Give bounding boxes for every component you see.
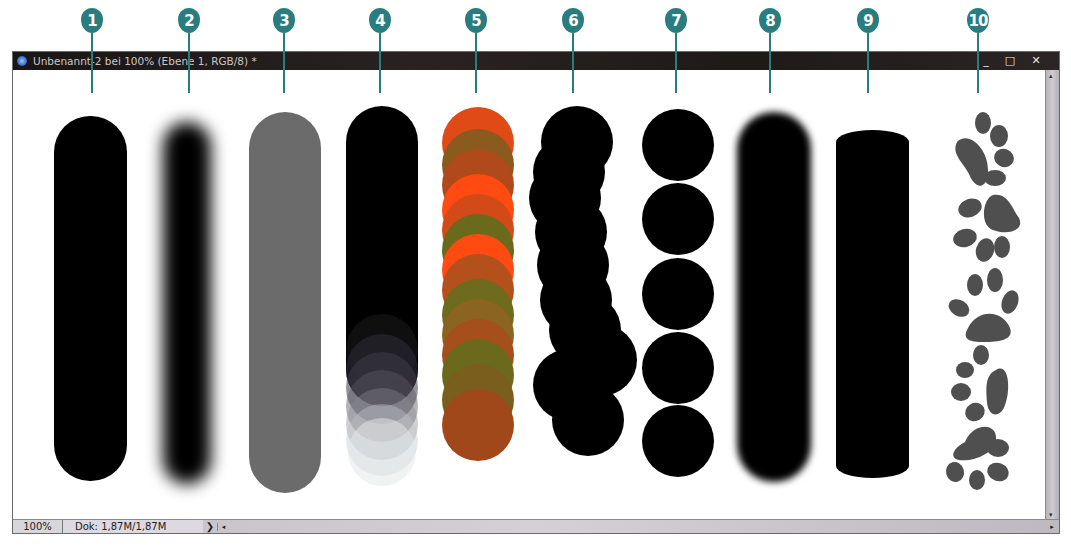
callout-stem [572,33,574,93]
stroke-3-gray [249,112,321,493]
callout-stem [977,33,979,93]
stroke-6-scatter [529,106,637,456]
stroke-7-spacing [642,109,714,477]
callout-6: 6 [561,8,585,93]
callout-number: 5 [465,8,487,33]
callout-8: 8 [758,8,782,93]
callout-number: 8 [759,8,781,33]
callout-stem [188,33,190,93]
scroll-down-arrow-icon[interactable]: ▾ [1049,511,1053,519]
callout-stem [475,33,477,93]
status-menu-arrow-icon[interactable]: ❯ [203,521,217,532]
status-bar: 100% Dok: 1,87M/1,87M ❯ ◂ ▸ [13,519,1059,533]
stroke-2-soft-round [163,122,211,484]
stroke-8-soft-edge [737,112,811,482]
callout-3: 3 [272,8,296,93]
horizontal-scrollbar[interactable] [229,520,1045,533]
document-size-info: Dok: 1,87M/1,87M [63,520,203,533]
callout-9: 9 [856,8,880,93]
callout-number: 6 [562,8,584,33]
zoom-level-field[interactable]: 100% [13,520,63,533]
stroke-10-paw-prints [944,112,1022,490]
maximize-button[interactable]: □ [999,52,1021,68]
brush-strokes [13,70,1046,521]
vertical-scrollbar[interactable]: ▴ ▾ [1045,70,1059,521]
callout-number: 1 [81,8,103,33]
window-title: Unbenannt-2 bei 100% (Ebene 1, RGB/8) * [33,55,257,67]
callout-stem [283,33,285,93]
callout-number: 2 [178,8,200,33]
callout-stem [675,33,677,93]
callout-number: 4 [369,8,391,33]
document-window: Unbenannt-2 bei 100% (Ebene 1, RGB/8) * … [12,51,1060,534]
callout-number: 3 [273,8,295,33]
callout-7: 7 [664,8,688,93]
callout-1: 1 [80,8,104,93]
document-icon [17,56,27,66]
stroke-5-color-dynamics [442,107,514,461]
scroll-left-arrow-icon[interactable]: ◂ [217,523,229,531]
stroke-1-hard-round [54,116,127,481]
callout-2: 2 [177,8,201,93]
stroke-4-fade [346,106,418,486]
callout-number: 9 [857,8,879,33]
callout-5: 5 [464,8,488,93]
callout-number: 7 [665,8,687,33]
scroll-up-arrow-icon[interactable]: ▴ [1049,72,1053,80]
callout-10: 10 [966,8,990,93]
callout-stem [91,33,93,93]
callout-stem [867,33,869,93]
callout-4: 4 [368,8,392,93]
callout-stem [769,33,771,93]
stroke-9-angle [836,130,909,478]
callout-stem [379,33,381,93]
canvas[interactable] [13,70,1046,521]
scroll-right-arrow-icon[interactable]: ▸ [1045,523,1059,531]
title-bar[interactable]: Unbenannt-2 bei 100% (Ebene 1, RGB/8) * … [13,52,1059,70]
close-button[interactable]: ✕ [1025,52,1047,68]
callout-number: 10 [967,8,989,33]
